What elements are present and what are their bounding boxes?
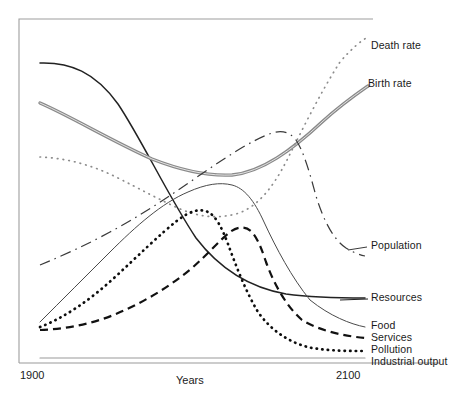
series-label-services: Services [371,332,412,343]
series-label-resources: Resources [371,292,422,303]
leader-population [348,247,367,250]
series-line-birth-rate-highlight [40,86,368,175]
series-label-birth-rate: Birth rate [368,78,412,89]
series-label-food: Food [371,320,395,331]
series-line-birth-rate [40,86,368,175]
leader-resources [340,299,368,300]
x-axis-title: Years [176,374,204,386]
series-label-industrial-output: Industrial output [371,356,447,367]
x-axis-tick-start: 1900 [20,369,44,381]
series-line-food [40,184,365,327]
series-label-pollution: Pollution [371,344,412,355]
chart-container: Death rate Birth rate Population Resourc… [0,0,459,402]
series-line-pollution [40,210,365,351]
x-axis-tick-end: 2100 [336,369,360,381]
series-line-services [40,228,365,339]
plot-frame [19,19,373,363]
series-line-resources [40,63,365,298]
series-label-death-rate: Death rate [371,40,421,51]
series-label-population: Population [371,240,422,251]
